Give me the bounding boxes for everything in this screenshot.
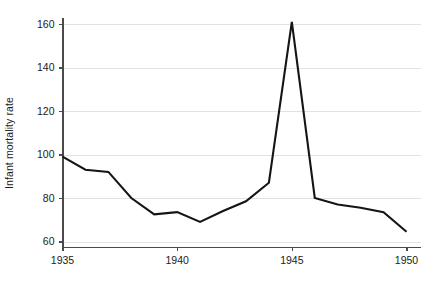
x-tick-label-1950: 1950 [395, 254, 419, 266]
y-tick-label-60: 60 [43, 235, 55, 247]
y-tick-label-120: 120 [37, 105, 55, 117]
x-tick-label-1945: 1945 [280, 254, 304, 266]
y-tick-label-160: 160 [37, 18, 55, 30]
x-tick-label-1935: 1935 [51, 254, 75, 266]
plot-area: 6080100120140160 1935194019451950 [0, 0, 431, 286]
y-tick-label-100: 100 [37, 148, 55, 160]
x-axis-ticks-group: 1935194019451950 [51, 247, 419, 266]
x-tick-label-1940: 1940 [165, 254, 189, 266]
y-axis-ticks-group: 6080100120140160 [37, 18, 63, 248]
infant-mortality-line-chart: Infant mortality rate 6080100120140160 1… [0, 0, 431, 286]
data-series-line [63, 22, 407, 232]
y-tick-label-80: 80 [43, 192, 55, 204]
y-tick-label-140: 140 [37, 61, 55, 73]
